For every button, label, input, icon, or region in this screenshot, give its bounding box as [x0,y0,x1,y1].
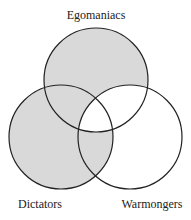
venn-diagram: Egomaniacs Dictators Warmongers [0,0,191,220]
label-egomaniacs: Egomaniacs [67,8,126,22]
label-warmongers: Warmongers [121,197,182,211]
label-dictators: Dictators [18,197,62,211]
